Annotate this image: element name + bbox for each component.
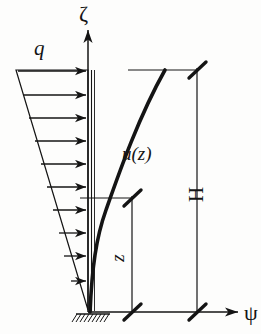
- dimension-z-label: z: [107, 254, 129, 261]
- profile-label: u(z): [122, 143, 152, 165]
- triangular-load: [16, 70, 88, 310]
- deflection-profile: [90, 70, 165, 312]
- load-label: q: [34, 36, 45, 61]
- zeta-axis-label: ζ: [79, 1, 88, 27]
- dimension-H-label: H: [184, 187, 209, 202]
- load-arrow-group: [18, 71, 86, 281]
- load-triangle-outline: [16, 70, 88, 310]
- psi-axis-label: ψ: [244, 300, 258, 326]
- engineering-diagram: q u(z) ζ ψ H z: [0, 0, 261, 334]
- fixed-support: [72, 314, 110, 322]
